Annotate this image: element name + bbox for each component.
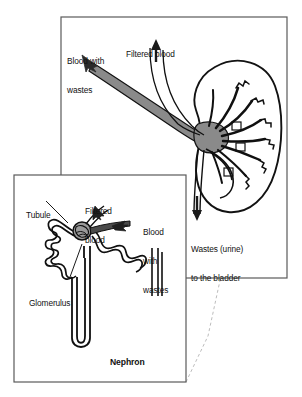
inset-panel-frame	[14, 175, 186, 382]
diagram-canvas	[0, 0, 302, 397]
renal-hilum	[194, 122, 229, 153]
kidney-nephron-diagram	[0, 0, 302, 397]
nephron-detail-panel	[14, 175, 186, 382]
hilum-mass	[194, 122, 229, 153]
glomerulus-structure	[73, 222, 91, 240]
